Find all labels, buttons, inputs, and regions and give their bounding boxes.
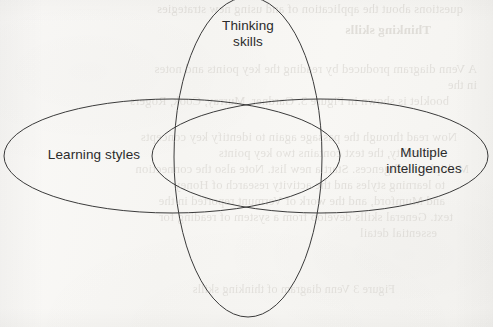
venn-label-thinking-skills: Thinking skills [188, 18, 308, 50]
scanned-page: questions about the application of and u… [0, 0, 493, 327]
venn-label-learning-styles: Learning styles [34, 147, 154, 163]
venn-label-multiple-intelligences: Multiple intelligences [364, 145, 484, 177]
